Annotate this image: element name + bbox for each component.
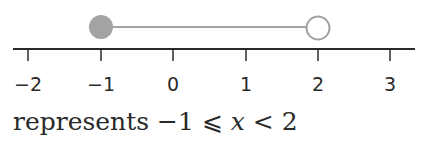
open-endpoint-icon bbox=[307, 17, 330, 40]
tick-label-minus-2: −2 bbox=[8, 73, 48, 95]
caption-variable: x bbox=[231, 107, 245, 136]
tick-label-0: 0 bbox=[153, 73, 193, 95]
tick-label-3: 3 bbox=[370, 73, 410, 95]
inequality-caption: represents −1 ⩽ x < 2 bbox=[13, 107, 298, 136]
axis-ticks bbox=[28, 49, 390, 61]
tick-label-2: 2 bbox=[298, 73, 338, 95]
tick-label-minus-1: −1 bbox=[81, 73, 121, 95]
tick-label-1: 1 bbox=[226, 73, 266, 95]
caption-prefix: represents −1 ⩽ bbox=[13, 107, 231, 136]
caption-suffix: < 2 bbox=[245, 107, 298, 136]
closed-endpoint-icon bbox=[89, 15, 113, 39]
number-line-figure: −2 −1 0 1 2 3 represents −1 ⩽ x < 2 bbox=[0, 0, 421, 146]
